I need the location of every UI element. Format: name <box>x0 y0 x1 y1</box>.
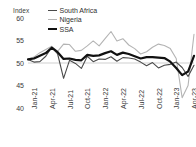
x-axis-tick-Apr-21: Apr-21 <box>49 88 56 109</box>
y-axis-tick-55: 55 <box>4 37 24 44</box>
x-axis-tick-Apr-22: Apr-22 <box>120 88 127 109</box>
x-axis-tick-Oct-21: Oct-21 <box>84 88 91 109</box>
x-axis-tick-Apr-23: Apr-23 <box>191 88 196 109</box>
y-axis-title: Index <box>13 7 29 14</box>
x-axis-tick-Jan-23: Jan-23 <box>173 88 180 109</box>
legend-item-south-africa: South Africa <box>48 6 97 14</box>
y-axis-tick-50: 50 <box>4 60 24 67</box>
series-line-ssa <box>28 48 194 75</box>
y-axis-tick-45: 45 <box>4 82 24 89</box>
x-axis-tick-group: Jan-21Apr-21Jul-21Oct-21Jan-22Apr-22Jul-… <box>28 109 194 145</box>
x-axis-tick-Oct-22: Oct-22 <box>156 88 163 109</box>
y-axis-tick-60: 60 <box>4 15 24 22</box>
legend-label-south-africa: South Africa <box>60 7 98 14</box>
x-axis-tick-Jan-21: Jan-21 <box>31 88 38 109</box>
pmi-index-line-chart: Index 6055504540 South Africa Nigeria SS… <box>0 0 196 147</box>
x-axis-tick-Jul-21: Jul-21 <box>67 90 74 109</box>
x-axis-tick-Jul-22: Jul-22 <box>138 90 145 109</box>
y-axis-tick-40: 40 <box>4 105 24 112</box>
x-axis-tick-Jan-22: Jan-22 <box>102 88 109 109</box>
legend-line-swatch-south-africa <box>48 10 57 11</box>
